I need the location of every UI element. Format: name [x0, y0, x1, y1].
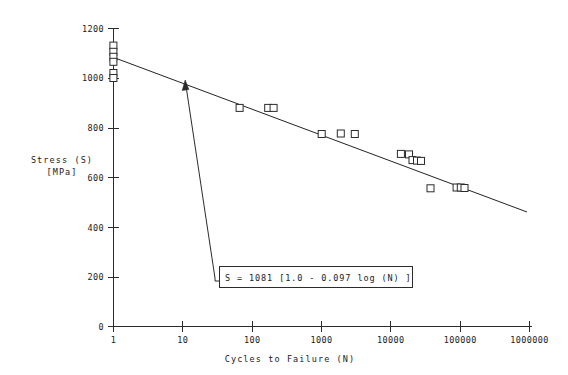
annotation-group: S = 1081 [1.0 - 0.097 log (N) ]: [182, 80, 412, 288]
data-point-marker: [418, 157, 425, 164]
y-tick-labels: 1200 1000 800 600 400 200 0: [82, 24, 104, 332]
annotation-arrow-line: [186, 86, 215, 278]
data-point-marker: [337, 130, 344, 137]
x-tick-label-100000: 100000: [444, 335, 477, 345]
data-point-marker: [110, 75, 117, 82]
x-tick-label-1000: 1000: [310, 335, 332, 345]
chart-container: 1200 1000 800 600 400 200 0 1 10 100 100…: [0, 0, 568, 375]
x-tick-label-1000000: 1000000: [510, 335, 549, 345]
data-point-marker: [236, 104, 243, 111]
y-tick-label-800: 800: [87, 123, 104, 133]
data-point-marker: [397, 150, 404, 157]
y-tick-label-1200: 1200: [82, 24, 104, 34]
data-point-marker: [318, 131, 325, 138]
data-point-marker: [270, 104, 277, 111]
annotation-leader-line: [215, 278, 219, 281]
x-tick-label-10: 10: [177, 335, 188, 345]
data-point-marker: [351, 131, 358, 138]
y-tick-label-400: 400: [87, 223, 104, 233]
y-tick-label-600: 600: [87, 173, 104, 183]
y-tick-label-1000: 1000: [82, 73, 104, 83]
x-axis-title: Cycles to Failure (N): [225, 354, 356, 364]
x-tick-label-10000: 10000: [377, 335, 405, 345]
sn-curve-plot: 1200 1000 800 600 400 200 0 1 10 100 100…: [0, 0, 568, 375]
data-point-marker: [461, 185, 468, 192]
data-point-marker: [427, 185, 434, 192]
data-point-marker: [110, 58, 117, 65]
x-tick-label-1: 1: [111, 335, 117, 345]
y-axis-title-line2: [MPa]: [46, 167, 77, 177]
x-tick-label-100: 100: [244, 335, 261, 345]
equation-text: S = 1081 [1.0 - 0.097 log (N) ]: [225, 273, 412, 283]
x-tick-labels: 1 10 100 1000 10000 100000 1000000: [111, 335, 549, 345]
y-tick-label-0: 0: [98, 322, 104, 332]
y-tick-label-200: 200: [87, 272, 104, 282]
y-axis-title-line1: Stress (S): [31, 155, 93, 165]
